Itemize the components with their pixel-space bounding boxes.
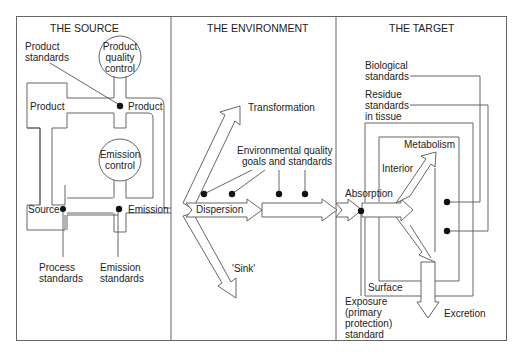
excretion-label: Excretion xyxy=(444,308,486,319)
emission-standards-label-1: Emission xyxy=(100,262,141,273)
dispersion-arrow-2 xyxy=(262,199,337,221)
absorption-label: Absorption xyxy=(345,188,393,199)
exposure-label-1: Exposure xyxy=(345,296,388,307)
sink-arrow xyxy=(183,213,236,298)
interior-label: Interior xyxy=(382,163,414,174)
product-node-dot xyxy=(117,103,123,109)
target-panel: THE TARGET Biological standards Residue … xyxy=(336,22,488,340)
residue-standards-label-2: standards xyxy=(365,100,409,111)
environment-title: THE ENVIRONMENT xyxy=(207,22,309,34)
pqc-stem xyxy=(114,76,126,98)
pqc-label-2: quality xyxy=(106,52,135,63)
biological-standards-label-1: Biological xyxy=(365,60,408,71)
process-stem xyxy=(27,128,40,205)
exposure-label-2: (primary xyxy=(345,307,382,318)
product-standards-label: Product xyxy=(25,41,60,52)
pqc-label-3: control xyxy=(105,63,135,74)
eq-goals-label-2: goals and standards xyxy=(242,156,332,167)
exposure-label-3: protection) xyxy=(345,318,392,329)
source-label: Source xyxy=(28,204,60,215)
transformation-label: Transformation xyxy=(248,102,315,113)
emission-label: Emission xyxy=(128,204,169,215)
residue-standards-dot xyxy=(444,228,450,234)
biological-standards-label-2: standards xyxy=(365,71,409,82)
surface-label: Surface xyxy=(368,282,403,293)
metabolism-label: Metabolism xyxy=(404,139,455,150)
emission-control-label-2: control xyxy=(105,160,135,171)
source-title: THE SOURCE xyxy=(50,22,119,34)
metabolism-arrow xyxy=(396,152,436,203)
eq-dot-3 xyxy=(276,191,282,197)
target-title: THE TARGET xyxy=(389,22,455,34)
eq-dot-2 xyxy=(229,191,235,197)
pqc-label-1: Product xyxy=(103,41,138,52)
emission-control-stem xyxy=(114,180,126,198)
emission-node-dot xyxy=(116,206,122,212)
eq-dot-4 xyxy=(302,191,308,197)
product-left-label: Product xyxy=(30,101,65,112)
sink-label: 'Sink' xyxy=(232,263,255,274)
dispersion-label: Dispersion xyxy=(196,204,243,215)
biological-standards-dot xyxy=(444,199,450,205)
environment-panel: THE ENVIRONMENT Transformation 'Sink' Di… xyxy=(183,22,337,298)
eq-goals-label-1: Environmental quality xyxy=(237,145,333,156)
product-right-label: Product xyxy=(128,101,163,112)
pollution-control-diagram: THE SOURCE Product standards Product Sou… xyxy=(0,0,521,357)
excretion-branch xyxy=(396,217,435,262)
process-standards-label-2: standards xyxy=(39,273,83,284)
eq-leader-2 xyxy=(232,170,265,194)
product-standards-label-2: standards xyxy=(25,52,69,63)
excretion-arrow xyxy=(417,262,439,318)
residue-standards-label-3: in tissue xyxy=(365,111,402,122)
residue-standards-label-1: Residue xyxy=(365,89,402,100)
source-emission-channel xyxy=(67,198,113,213)
absorption-node-dot xyxy=(358,208,364,214)
eq-dot-1 xyxy=(201,191,207,197)
process-standards-label-1: Process xyxy=(39,262,75,273)
source-panel: THE SOURCE Product standards Product Sou… xyxy=(25,22,171,284)
emission-standards-label-2: standards xyxy=(100,273,144,284)
source-node-dot xyxy=(60,206,66,212)
exposure-label-4: standard xyxy=(345,329,384,340)
absorption-arrow xyxy=(362,199,413,221)
product-node-stub xyxy=(114,113,126,128)
emission-control-label-1: Emission xyxy=(100,149,141,160)
eq-leader-1 xyxy=(204,170,252,194)
